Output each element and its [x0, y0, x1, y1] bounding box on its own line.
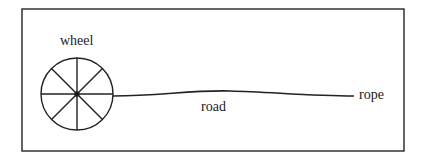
rope-label: rope: [359, 87, 384, 103]
diagram-canvas: [0, 0, 426, 164]
wheel-label: wheel: [60, 33, 93, 49]
road-label: road: [201, 99, 226, 115]
wheel-icon: [41, 58, 113, 130]
rope-line: [113, 91, 354, 96]
